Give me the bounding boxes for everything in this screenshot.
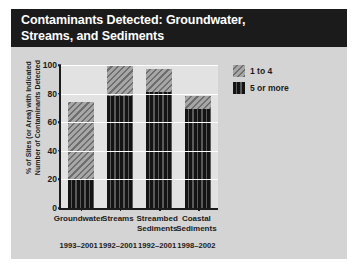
x-axis-tick-mark <box>81 208 83 211</box>
y-axis-tick-label: 20 <box>48 174 57 184</box>
chart-body: % of Sites (or Area) with Indicated Numb… <box>11 47 347 259</box>
bar-segment-1-to-4[interactable] <box>185 96 211 109</box>
bar-segment-1-to-4[interactable] <box>68 102 94 179</box>
bar-segment-5-or-more[interactable] <box>68 179 94 208</box>
bar-stack[interactable] <box>146 65 172 208</box>
bar-segment-5-or-more[interactable] <box>185 109 211 208</box>
gridline <box>61 94 218 95</box>
gridline <box>61 65 218 66</box>
plot-inner <box>61 65 218 208</box>
figure-container: Contaminants Detected: Groundwater, Stre… <box>11 9 347 259</box>
plot-area: 020406080100 <box>59 65 218 210</box>
bar-segment-1-to-4[interactable] <box>107 65 133 96</box>
legend-label: 5 or more <box>250 83 289 93</box>
y-axis-tick-label: 0 <box>52 203 57 213</box>
page-title: Contaminants Detected: Groundwater, Stre… <box>21 13 337 44</box>
bar-segment-5-or-more[interactable] <box>107 96 133 208</box>
chart-legend: 1 to 45 or more <box>233 65 289 99</box>
bar-stack[interactable] <box>68 65 94 208</box>
y-axis-tick-label: 80 <box>48 89 57 99</box>
legend-swatch-5-or-more <box>233 82 245 94</box>
x-axis-category-label: Coastal Sediments <box>156 214 236 233</box>
y-axis-tick-label: 100 <box>43 60 57 70</box>
x-axis-tick-mark <box>120 208 122 211</box>
bar-segment-1-to-4[interactable] <box>146 69 172 92</box>
y-axis-tick-label: 40 <box>48 146 57 156</box>
gridline <box>61 179 218 180</box>
y-axis-label: % of Sites (or Area) with Indicated Numb… <box>25 48 42 188</box>
y-axis-tick-mark <box>58 207 61 209</box>
bar-stack[interactable] <box>107 65 133 208</box>
gridline <box>61 122 218 123</box>
bar-stack[interactable] <box>185 65 211 208</box>
legend-item[interactable]: 1 to 4 <box>233 65 289 77</box>
y-axis-tick-label: 60 <box>48 117 57 127</box>
x-axis-tick-mark <box>198 208 200 211</box>
gridline <box>61 151 218 152</box>
chart-title-bar: Contaminants Detected: Groundwater, Stre… <box>11 9 347 47</box>
legend-label: 1 to 4 <box>250 66 272 76</box>
x-axis-year-range-label: 1998–2002 <box>156 241 236 250</box>
x-axis-tick-mark <box>159 208 161 211</box>
legend-swatch-1-to-4 <box>233 65 245 77</box>
legend-item[interactable]: 5 or more <box>233 82 289 94</box>
